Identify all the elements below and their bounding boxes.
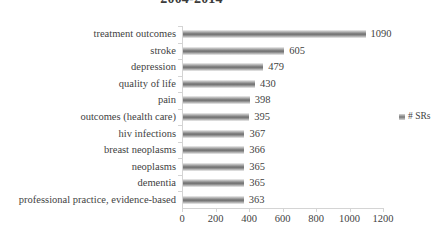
chart-title: 2004-2014	[0, 0, 383, 7]
y-axis-tick	[178, 43, 182, 44]
bar	[183, 196, 244, 204]
category-label: outcomes (health care)	[80, 112, 176, 123]
legend-label: # SRs	[408, 112, 430, 122]
chart-legend: # SRs	[399, 112, 430, 122]
x-axis-tick	[350, 208, 351, 212]
x-axis-tick-label: 1200	[373, 214, 394, 225]
bar-value-label: 398	[255, 95, 271, 106]
x-axis-tick	[249, 208, 250, 212]
bar	[183, 130, 244, 138]
bar-row: hiv infections367	[182, 125, 383, 142]
bar-value-label: 366	[249, 145, 265, 156]
category-label: treatment outcomes	[93, 29, 176, 40]
category-label: dementia	[138, 178, 176, 189]
x-axis-tick	[283, 208, 284, 212]
bar-value-label: 367	[249, 128, 265, 139]
y-axis-tick	[178, 26, 182, 27]
x-axis-tick-label: 800	[308, 214, 324, 225]
category-label: quality of life	[119, 79, 176, 90]
bar	[183, 163, 244, 171]
bar	[183, 30, 366, 38]
plot-area: treatment outcomes1090stroke605depressio…	[182, 26, 383, 208]
x-axis-tick-label: 200	[208, 214, 224, 225]
bar	[183, 146, 244, 154]
bar-row: professional practice, evidence-based363	[182, 191, 383, 208]
y-axis-tick	[178, 92, 182, 93]
x-axis-tick-label: 0	[179, 214, 184, 225]
bar-chart: 2004-2014 treatment outcomes1090stroke60…	[0, 0, 443, 230]
category-label: professional practice, evidence-based	[19, 194, 176, 205]
x-axis-tick-label: 600	[275, 214, 291, 225]
category-label: pain	[158, 95, 176, 106]
category-label: stroke	[150, 46, 176, 57]
bar-row: pain398	[182, 92, 383, 109]
category-label: depression	[131, 62, 176, 73]
category-label: neoplasms	[132, 161, 176, 172]
y-axis-tick	[178, 158, 182, 159]
y-axis-tick	[178, 175, 182, 176]
bar-row: outcomes (health care)395	[182, 109, 383, 126]
bar	[183, 113, 249, 121]
y-axis-tick	[178, 191, 182, 192]
y-axis-tick	[178, 76, 182, 77]
bar-row: quality of life430	[182, 76, 383, 93]
bar-value-label: 395	[254, 112, 270, 123]
bar	[183, 47, 284, 55]
y-axis-tick	[178, 59, 182, 60]
bar-value-label: 430	[260, 79, 276, 90]
x-axis-tick	[383, 208, 384, 212]
bar-row: treatment outcomes1090	[182, 26, 383, 43]
bar-row: breast neoplasms366	[182, 142, 383, 159]
bar-value-label: 365	[249, 161, 265, 172]
bar	[183, 96, 250, 104]
bar	[183, 63, 263, 71]
x-axis-tick	[182, 208, 183, 212]
y-axis-tick	[178, 109, 182, 110]
bar-value-label: 1090	[371, 29, 392, 40]
y-axis-tick	[178, 125, 182, 126]
bar-row: depression479	[182, 59, 383, 76]
category-label: hiv infections	[119, 128, 176, 139]
category-label: breast neoplasms	[104, 145, 176, 156]
bar-row: dementia365	[182, 175, 383, 192]
x-axis-tick-label: 1000	[339, 214, 360, 225]
x-axis-tick	[316, 208, 317, 212]
x-axis-tick	[216, 208, 217, 212]
bar-value-label: 365	[249, 178, 265, 189]
x-axis-tick-label: 400	[241, 214, 257, 225]
bar-value-label: 363	[249, 194, 265, 205]
bar	[183, 179, 244, 187]
legend-swatch-icon	[399, 114, 405, 120]
bar-value-label: 479	[268, 62, 284, 73]
bar-row: stroke605	[182, 43, 383, 60]
bar-value-label: 605	[289, 46, 305, 57]
bar-row: neoplasms365	[182, 158, 383, 175]
y-axis-tick	[178, 142, 182, 143]
bar	[183, 80, 255, 88]
